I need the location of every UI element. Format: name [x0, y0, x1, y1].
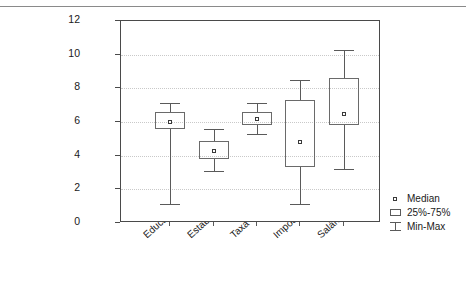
- median-marker: [255, 117, 259, 121]
- whisker-cap-max: [334, 50, 354, 51]
- whisker-upper: [214, 129, 215, 141]
- whisker-lower: [300, 167, 301, 204]
- y-tick-label: 4: [40, 149, 80, 159]
- median-marker: [342, 112, 346, 116]
- y-tick-label: 6: [40, 115, 80, 125]
- gridline: [121, 189, 379, 190]
- legend-minmax-cap-bottom-icon: [390, 230, 401, 231]
- x-tick-mark: [299, 222, 300, 226]
- y-tick-label: 8: [40, 81, 80, 91]
- gridline: [121, 55, 379, 56]
- legend-label: 25%-75%: [404, 206, 450, 219]
- legend-label: Median: [404, 192, 440, 205]
- legend-item: Min-Max: [388, 220, 464, 233]
- whisker-cap-max: [290, 80, 310, 81]
- whisker-cap-min: [160, 204, 180, 205]
- whisker-upper: [257, 103, 258, 111]
- y-tick-label: 2: [40, 182, 80, 192]
- legend-item: Median: [388, 192, 464, 205]
- median-marker: [168, 120, 172, 124]
- whisker-lower: [257, 125, 258, 133]
- whisker-cap-min: [204, 171, 224, 172]
- median-marker-icon: [388, 192, 404, 205]
- gridline: [121, 156, 379, 157]
- quartile-box: [329, 78, 359, 125]
- x-tick-mark: [169, 222, 170, 226]
- whisker-cap-max: [160, 103, 180, 104]
- whisker-lower: [170, 129, 171, 205]
- y-tick-label: 12: [40, 14, 80, 24]
- plot-area: [120, 20, 380, 222]
- whisker-cap-min: [334, 169, 354, 170]
- legend-item: 25%-75%: [388, 206, 464, 219]
- whisker-lower: [344, 125, 345, 169]
- whisker-upper: [170, 103, 171, 111]
- minmax-whisker-icon: [388, 220, 404, 233]
- whisker-cap-max: [204, 129, 224, 130]
- y-tick-label: 10: [40, 48, 80, 58]
- quartile-box-icon: [388, 206, 404, 219]
- whisker-lower: [214, 159, 215, 171]
- legend-quartile-icon: [390, 209, 401, 216]
- x-tick-mark: [343, 222, 344, 226]
- quartile-box: [285, 100, 315, 167]
- chart-legend: Median25%-75%Min-Max: [388, 192, 464, 234]
- whisker-cap-min: [290, 204, 310, 205]
- box-plot-figure: 024681012 EducaçãoEstabilidadeTaxa de Ju…: [0, 0, 466, 283]
- legend-label: Min-Max: [404, 220, 445, 233]
- median-marker: [212, 149, 216, 153]
- legend-median-icon: [393, 197, 397, 201]
- x-tick-mark: [256, 222, 257, 226]
- whisker-cap-min: [247, 134, 267, 135]
- whisker-cap-max: [247, 103, 267, 104]
- y-tick-label: 0: [40, 216, 80, 226]
- x-tick-mark: [213, 222, 214, 226]
- whisker-upper: [300, 80, 301, 100]
- whisker-upper: [344, 50, 345, 79]
- y-tick-mark: [115, 222, 120, 223]
- median-marker: [298, 140, 302, 144]
